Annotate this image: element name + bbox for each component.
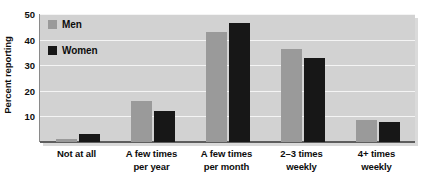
x-axis-tick-label: 2–3 timesweekly (280, 148, 322, 173)
bar-men (56, 139, 77, 142)
x-axis-tick-label: Not at all (57, 148, 96, 161)
x-axis-tick-label-line: per year (126, 161, 177, 174)
legend-entry-women: Women (48, 44, 97, 57)
bar-group (206, 14, 250, 142)
bar-women (229, 23, 250, 142)
y-axis-tick-labels: 1020304050 (14, 0, 38, 150)
y-axis-tick-label: 20 (24, 85, 35, 96)
bar-women (79, 134, 100, 142)
bar-women (304, 58, 325, 142)
legend-label-women: Women (62, 45, 97, 56)
bar-men (356, 120, 377, 142)
y-axis-tick-label: 50 (24, 9, 35, 20)
y-axis-tick-label: 30 (24, 60, 35, 71)
bar-group (131, 14, 175, 142)
legend-swatch-men-icon (48, 20, 57, 29)
y-axis-tick-label: 40 (24, 34, 35, 45)
y-axis-tick-label: 10 (24, 111, 35, 122)
x-axis-tick-label-line: weekly (280, 161, 322, 174)
x-axis-tick-label-line: per month (201, 161, 252, 174)
x-axis-tick-label-line: A few times (201, 148, 252, 161)
x-axis-tick-label: A few timesper month (201, 148, 252, 173)
x-axis-tick-label: A few timesper year (126, 148, 177, 173)
bar-men (131, 101, 152, 142)
x-axis-tick-label-line: 4+ times (358, 148, 396, 161)
bar-women (154, 111, 175, 142)
chart-legend: Men Women (48, 18, 97, 70)
x-axis-tick-labels: Not at allA few timesper yearA few times… (39, 146, 414, 190)
bar-men (206, 32, 227, 142)
x-axis-tick-label-line: A few times (126, 148, 177, 161)
y-axis-title: Percent reporting (0, 0, 14, 150)
y-axis-title-label: Percent reporting (2, 36, 13, 113)
bar-women (379, 122, 400, 142)
bar-group (356, 14, 400, 142)
legend-swatch-women-icon (48, 46, 57, 55)
plot-area: Men Women (39, 14, 415, 142)
x-axis-tick-label-line: 2–3 times (280, 148, 322, 161)
legend-entry-men: Men (48, 18, 97, 31)
x-axis-tick-label: 4+ timesweekly (358, 148, 396, 173)
legend-label-men: Men (62, 19, 82, 30)
x-axis-tick-label-line: Not at all (57, 148, 96, 161)
bar-men (281, 49, 302, 142)
grouped-bar-chart: Percent reporting 1020304050 Men Women N… (0, 0, 423, 192)
x-axis-tick-label-line: weekly (358, 161, 396, 174)
bar-group (281, 14, 325, 142)
